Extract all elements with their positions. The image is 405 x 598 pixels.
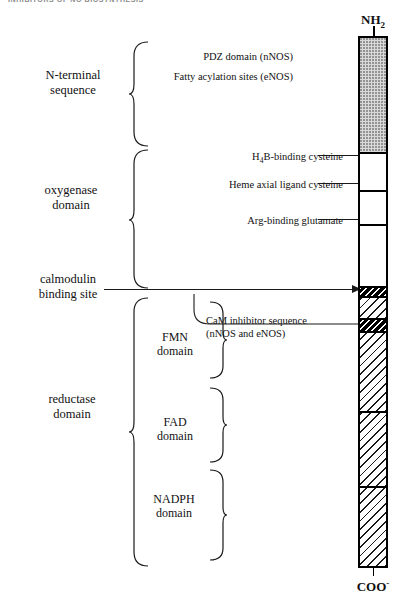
leader-line-arg <box>318 219 360 220</box>
brace-oxygenase-domain <box>128 148 150 290</box>
bar-segment-cam-black-hatch-1 <box>360 288 386 298</box>
bar-segment-oxy-lower-white <box>360 226 386 288</box>
c-terminus-superscript: - <box>386 578 389 588</box>
nos-protein-bar <box>358 36 388 568</box>
label-oxygenase-domain: oxygenase domain <box>10 183 132 214</box>
annotation-h4b-binding-cysteine: H4B-binding cysteine <box>252 150 343 165</box>
bar-segment-fad-domain <box>360 413 386 488</box>
annotation-heme-axial-ligand-cysteine: Heme axial ligand cysteine <box>229 178 343 191</box>
label-calmodulin-binding-site: calmodulin binding site <box>4 272 132 303</box>
bar-segment-n-terminal-stipple <box>360 38 386 154</box>
brace-n-terminal-sequence <box>128 40 150 148</box>
n-terminus-label: NH2 <box>338 12 405 30</box>
bar-segment-fmn-domain <box>360 333 386 413</box>
c-terminus-label: COO- <box>338 578 405 595</box>
brace-fad-domain <box>208 386 228 466</box>
bar-segment-cam-black-hatch-2 <box>360 320 386 333</box>
bar-segment-oxy-upper-white <box>360 154 386 192</box>
bar-segment-cam-white-hatch <box>360 298 386 320</box>
leader-line-heme <box>318 183 360 184</box>
label-n-terminal-sequence: N-terminal sequence <box>14 68 132 99</box>
leader-line-h4b <box>318 155 360 156</box>
label-reductase-domain: reductase domain <box>12 392 132 423</box>
brace-fmn-domain <box>208 300 228 382</box>
annotation-fatty-acylation-sites: Fatty acylation sites (eNOS) <box>174 70 293 83</box>
annotation-arg-binding-glutamate: Arg-binding glutamate <box>247 214 343 227</box>
annotation-h4b-pre: H <box>252 151 260 162</box>
n-terminus-base: NH <box>361 12 381 27</box>
c-terminus-base: COO <box>357 579 387 594</box>
brace-nadph-domain <box>208 468 228 564</box>
bar-segment-nadph-domain <box>360 488 386 566</box>
bar-segment-oxy-mid-white <box>360 192 386 226</box>
running-head: INHIBITORS OF NO BIOSYNTHESIS <box>8 0 144 2</box>
annotation-pdz-domain: PDZ domain (nNOS) <box>203 50 293 63</box>
brace-reductase-domain <box>128 296 150 568</box>
label-fad-domain: FAD domain <box>140 415 210 444</box>
label-fmn-domain: FMN domain <box>140 330 210 359</box>
n-terminus-subscript: 2 <box>381 20 386 30</box>
annotation-h4b-post: B-binding cysteine <box>263 151 343 162</box>
